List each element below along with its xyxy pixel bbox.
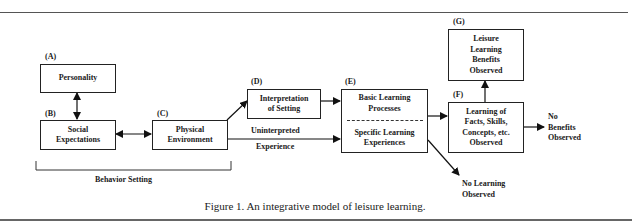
node-e-bottom-line: Experiences bbox=[354, 138, 414, 149]
node-d-tag: (D) bbox=[251, 77, 262, 86]
node-leisure-learning-benefits: Leisure Learning Benefits Observed bbox=[448, 29, 524, 81]
node-a-line: Personality bbox=[59, 73, 98, 84]
outcome-no-benefits: No Benefits Observed bbox=[548, 112, 581, 144]
node-a-tag: (A) bbox=[45, 52, 56, 61]
edge-label-experience: Experience bbox=[256, 142, 294, 153]
bottom-rule bbox=[0, 219, 632, 221]
node-e-top-line: Basic Learning bbox=[359, 93, 411, 104]
node-g-line: Observed bbox=[470, 66, 503, 77]
node-e-divider bbox=[347, 120, 423, 121]
node-learning-observed: Learning of Facts, Skills, Concepts, etc… bbox=[448, 102, 524, 153]
edge-label-uninterpreted: Uninterpreted bbox=[251, 126, 300, 137]
node-b-tag: (B) bbox=[45, 109, 56, 118]
node-g-tag: (G) bbox=[453, 17, 465, 26]
node-f-tag: (F) bbox=[453, 90, 463, 99]
node-g-line: Benefits bbox=[472, 55, 500, 66]
node-f-line: Concepts, etc. bbox=[462, 128, 509, 139]
node-e-basic-processes: Basic Learning Processes bbox=[359, 93, 411, 114]
node-physical-environment: Physical Environment bbox=[152, 120, 228, 150]
outcome-no-benefits-line: No bbox=[548, 112, 581, 123]
figure-caption: Figure 1. An integrative model of leisur… bbox=[0, 200, 630, 212]
node-personality: Personality bbox=[40, 64, 116, 93]
node-f-line: Observed bbox=[470, 138, 503, 149]
node-f-line: Facts, Skills, bbox=[465, 117, 508, 128]
outcome-no-benefits-line: Benefits bbox=[548, 123, 581, 134]
node-f-line: Learning of bbox=[466, 107, 506, 118]
node-c-tag: (C) bbox=[157, 109, 168, 118]
node-c-line: Physical bbox=[176, 125, 204, 136]
behavior-setting-bracket bbox=[36, 161, 231, 170]
node-e-tag: (E) bbox=[345, 77, 356, 86]
node-e-bottom-line: Specific Learning bbox=[354, 128, 414, 139]
outcome-no-learning-line: Observed bbox=[462, 190, 505, 201]
arrow-c-d bbox=[227, 101, 247, 120]
node-d-line: Interpretation bbox=[260, 94, 309, 105]
node-g-line: Leisure bbox=[473, 34, 499, 45]
node-e-top-line: Processes bbox=[359, 104, 411, 115]
node-b-line: Social bbox=[68, 125, 88, 136]
node-interpretation-of-setting: Interpretation of Setting bbox=[247, 89, 321, 119]
node-e-specific-experiences: Specific Learning Experiences bbox=[354, 128, 414, 149]
outcome-no-benefits-line: Observed bbox=[548, 133, 581, 144]
node-g-line: Learning bbox=[470, 45, 502, 56]
outcome-no-learning-line: No Learning bbox=[462, 179, 505, 190]
node-c-line: Environment bbox=[167, 135, 212, 146]
outcome-no-learning: No Learning Observed bbox=[462, 179, 505, 200]
node-b-line: Expectations bbox=[56, 135, 100, 146]
node-learning-processes: Basic Learning Processes Specific Learni… bbox=[341, 89, 428, 153]
behavior-setting-label: Behavior Setting bbox=[95, 175, 152, 186]
node-social-expectations: Social Expectations bbox=[40, 120, 116, 150]
node-d-line: of Setting bbox=[268, 104, 301, 115]
